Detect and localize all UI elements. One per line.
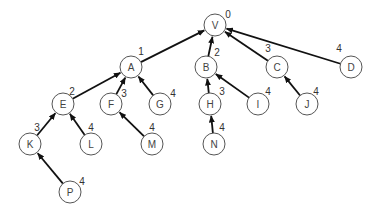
node-label: M <box>148 139 156 150</box>
node-d: D4 <box>336 43 362 79</box>
node-label: J <box>305 99 310 110</box>
node-label: G <box>156 99 164 110</box>
edge-l-to-e <box>70 114 85 135</box>
depth-label: 1 <box>138 46 144 57</box>
node-g: G4 <box>149 88 176 116</box>
edge-a-to-v <box>141 30 204 62</box>
edges-layer <box>37 29 340 184</box>
node-f: F3 <box>100 88 127 116</box>
node-label: A <box>128 62 135 73</box>
node-label: E <box>60 99 67 110</box>
depth-label: 0 <box>225 9 231 20</box>
depth-label: 4 <box>79 176 85 187</box>
node-label: H <box>206 99 213 110</box>
node-label: P <box>67 187 74 198</box>
node-n: N4 <box>203 122 225 156</box>
depth-label: 3 <box>34 122 40 133</box>
node-label: K <box>27 139 34 150</box>
depth-label: 3 <box>121 88 127 99</box>
node-p: P4 <box>59 176 85 204</box>
depth-label: 4 <box>336 43 342 54</box>
node-label: D <box>347 62 354 73</box>
node-c: C3 <box>265 43 288 79</box>
edge-n-to-h <box>211 116 213 133</box>
node-label: N <box>210 139 217 150</box>
depth-label: 3 <box>219 86 225 97</box>
node-label: C <box>273 62 280 73</box>
edge-c-to-v <box>225 32 268 61</box>
node-h: H3 <box>199 86 225 116</box>
depth-label: 4 <box>88 122 94 133</box>
node-b: B2 <box>195 47 220 79</box>
edge-m-to-f <box>120 112 145 136</box>
node-m: M4 <box>141 122 163 156</box>
edge-p-to-k <box>38 153 63 183</box>
edge-h-to-b <box>207 79 209 93</box>
node-label: I <box>257 99 260 110</box>
node-label: V <box>212 20 219 31</box>
depth-label: 4 <box>265 86 271 97</box>
node-i: I4 <box>247 86 271 116</box>
node-v: V0 <box>204 9 231 37</box>
tree-svg: V0A1B2C3D4E2F3G4H3I4J4K3L4M4N4P4 <box>0 0 378 218</box>
depth-label: 2 <box>69 86 75 97</box>
depth-label: 4 <box>149 122 155 133</box>
node-label: F <box>108 99 114 110</box>
tree-diagram: V0A1B2C3D4E2F3G4H3I4J4K3L4M4N4P4 <box>0 0 378 218</box>
edge-g-to-a <box>138 76 153 95</box>
node-label: L <box>88 139 94 150</box>
node-j: J4 <box>296 86 319 116</box>
node-a: A1 <box>120 46 144 79</box>
depth-label: 2 <box>214 47 220 58</box>
depth-label: 4 <box>219 122 225 133</box>
node-e: E2 <box>52 86 75 116</box>
node-k: K3 <box>19 122 41 156</box>
node-label: B <box>203 62 210 73</box>
depth-label: 4 <box>170 88 176 99</box>
node-l: L4 <box>80 122 102 156</box>
edge-j-to-c <box>285 76 301 95</box>
depth-label: 3 <box>265 43 271 54</box>
depth-label: 4 <box>313 86 319 97</box>
edge-b-to-v <box>208 37 212 57</box>
